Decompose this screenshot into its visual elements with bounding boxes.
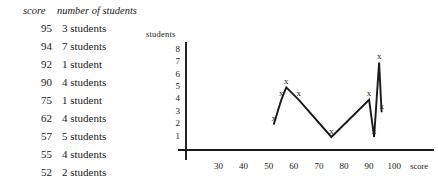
data-point-marker: x	[377, 51, 382, 61]
score-distribution-chart: students score 12345678 3040506070809010…	[0, 0, 438, 189]
data-point-marker: x	[372, 126, 377, 136]
data-point-marker: x	[367, 88, 372, 98]
data-series-line	[274, 63, 382, 137]
data-point-marker: x	[284, 76, 289, 86]
data-point-marker: x	[279, 88, 284, 98]
data-point-marker: x	[271, 113, 276, 123]
chart-axes	[178, 42, 434, 160]
data-point-marker: x	[329, 126, 334, 136]
data-point-marker: x	[379, 101, 384, 111]
data-point-markers: xxxxxxxxx	[271, 51, 384, 135]
data-point-marker: x	[297, 88, 302, 98]
chart-plot-area: xxxxxxxxx	[0, 0, 438, 189]
figure-root: score number of students 95 3 students 9…	[0, 0, 438, 189]
